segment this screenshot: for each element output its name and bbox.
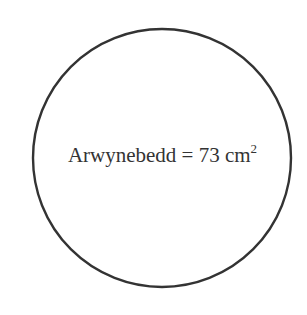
area-unit: cm [225, 143, 251, 167]
area-value: 73 [199, 143, 220, 167]
unit-exponent: 2 [251, 141, 258, 156]
area-term: Arwynebedd [68, 143, 176, 167]
equals-sign: = [182, 143, 194, 167]
area-label: Arwynebedd = 73 cm2 [0, 143, 307, 168]
